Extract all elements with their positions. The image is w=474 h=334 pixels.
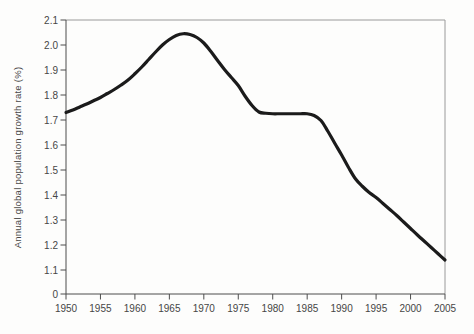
x-tick-label: 1995 bbox=[365, 303, 388, 314]
y-tick-label: 0 bbox=[52, 289, 58, 300]
chart-area: 2.12.01.91.81.71.61.51.41.31.21.10195019… bbox=[0, 0, 474, 334]
y-tick-label: 1.3 bbox=[44, 215, 58, 226]
y-tick-label: 1.4 bbox=[44, 190, 58, 201]
y-tick-label: 1.2 bbox=[44, 240, 58, 251]
x-tick-label: 1955 bbox=[89, 303, 112, 314]
x-tick-label: 1990 bbox=[331, 303, 354, 314]
y-tick-label: 2.0 bbox=[44, 40, 58, 51]
y-tick-label: 1.7 bbox=[44, 115, 58, 126]
x-tick-label: 1985 bbox=[296, 303, 319, 314]
population-growth-line-chart: 2.12.01.91.81.71.61.51.41.31.21.10195019… bbox=[0, 0, 474, 334]
y-tick-label: 1.1 bbox=[44, 265, 58, 276]
x-tick-label: 1965 bbox=[158, 303, 181, 314]
y-tick-label: 1.8 bbox=[44, 90, 58, 101]
x-tick-label: 1970 bbox=[193, 303, 216, 314]
x-tick-label: 1950 bbox=[55, 303, 78, 314]
x-tick-label: 1980 bbox=[262, 303, 285, 314]
y-tick-label: 1.6 bbox=[44, 140, 58, 151]
x-tick-label: 1960 bbox=[124, 303, 147, 314]
y-tick-label: 2.1 bbox=[44, 15, 58, 26]
x-tick-label: 2005 bbox=[434, 303, 457, 314]
y-tick-label: 1.5 bbox=[44, 165, 58, 176]
growth-rate-curve bbox=[66, 34, 445, 260]
y-axis-title: Annual global population growth rate (%) bbox=[12, 27, 25, 289]
x-tick-label: 2000 bbox=[399, 303, 422, 314]
x-tick-label: 1975 bbox=[227, 303, 250, 314]
y-tick-label: 1.9 bbox=[44, 65, 58, 76]
